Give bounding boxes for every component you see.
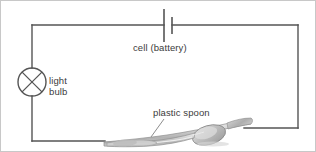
spoon-leader-line <box>151 119 164 137</box>
cell-battery-label: cell (battery) <box>133 42 187 53</box>
light-bulb-label-line2: bulb <box>49 86 67 97</box>
cell-battery-symbol <box>164 9 172 42</box>
light-bulb-symbol <box>18 68 46 96</box>
plastic-spoon-label: plastic spoon <box>153 107 210 118</box>
circuit-diagram-figure: cell (battery) light bulb plastic spoon <box>0 0 316 152</box>
light-bulb-label-line1: light <box>49 75 67 86</box>
plastic-spoon-illustration <box>104 118 253 149</box>
